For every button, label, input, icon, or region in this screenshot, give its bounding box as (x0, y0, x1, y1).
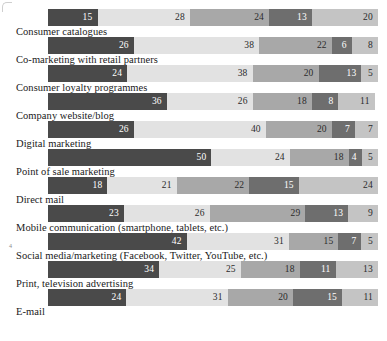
chart-row: 3425181113Print, television advertising (0, 261, 387, 289)
bar-segment: 20 (312, 9, 378, 26)
bar-segment-value: 15 (83, 13, 98, 23)
bar-segment-value: 8 (368, 41, 378, 51)
chart-row: 26382268Co-marketing with retail partner… (0, 37, 387, 65)
bar-segment-value: 50 (196, 153, 211, 163)
category-label: E-mail (16, 306, 45, 317)
bar-segment: 22 (177, 177, 250, 194)
bar-segment: 9 (348, 205, 378, 222)
bar-segment-value: 7 (352, 237, 362, 247)
bar-segment-value: 13 (333, 209, 348, 219)
bar-segment: 24 (211, 149, 289, 166)
bar-segment-value: 13 (297, 13, 312, 23)
bar-segment-value: 42 (172, 237, 187, 247)
bar-segment: 34 (48, 261, 159, 278)
bar-segment-value: 5 (368, 69, 378, 79)
chart-row: 362618811Company website/blog (0, 93, 387, 121)
bar-segment-value: 11 (321, 265, 336, 275)
category-label: Direct mail (16, 194, 64, 205)
bar-segment-value: 24 (112, 293, 127, 303)
bar-segment: 15 (249, 177, 299, 194)
bar-segment: 24 (299, 177, 378, 194)
bar-segment-value: 36 (152, 97, 167, 107)
stacked-bar: 1821221524 (48, 177, 378, 194)
bar-segment: 18 (241, 261, 300, 278)
bar-segment: 18 (48, 177, 107, 194)
chart-row: 2431201511E-mail (0, 289, 387, 317)
category-label: Co-marketing with retail partners (16, 54, 158, 65)
chart-rows-container: 1528241320Consumer catalogues26382268Co-… (0, 9, 387, 317)
bar-segment-value: 6 (342, 41, 352, 51)
bar-segment: 20 (266, 121, 332, 138)
bar-segment: 5 (362, 149, 378, 166)
stacked-bar: 26402077 (48, 121, 378, 138)
bar-segment: 40 (134, 121, 266, 138)
bar-segment: 8 (312, 93, 338, 110)
bar-segment: 18 (253, 93, 312, 110)
bar-segment-value: 5 (368, 153, 378, 163)
category-label: Digital marketing (16, 138, 91, 149)
bar-segment: 15 (289, 233, 339, 250)
bar-segment: 38 (134, 37, 259, 54)
bar-segment: 20 (228, 289, 293, 306)
bar-segment-value: 8 (328, 97, 338, 107)
bar-segment-value: 24 (363, 181, 378, 191)
bar-segment-value: 26 (119, 41, 134, 51)
bar-segment-value: 26 (195, 209, 210, 219)
bar-segment-value: 7 (368, 125, 378, 135)
bar-segment: 38 (127, 65, 252, 82)
bar-segment: 6 (332, 37, 352, 54)
category-label: Point of sale marketing (16, 166, 115, 177)
bar-segment-value: 34 (144, 265, 159, 275)
stacked-bar: 26382268 (48, 37, 378, 54)
bar-segment-value: 13 (347, 69, 362, 79)
bar-segment-value: 11 (360, 97, 375, 107)
bar-segment: 11 (338, 93, 374, 110)
chart-row: 42311575Social media/marketing (Facebook… (0, 233, 387, 261)
category-label: Consumer catalogues (16, 26, 107, 37)
stacked-bar: 1528241320 (48, 9, 378, 26)
bar-segment: 26 (48, 121, 134, 138)
bar-segment-value: 24 (275, 153, 290, 163)
bar-segment-value: 15 (327, 293, 342, 303)
stacked-bar: 243820135 (48, 65, 378, 82)
bar-segment-value: 15 (323, 237, 338, 247)
bar-segment: 13 (305, 205, 348, 222)
stacked-bar: 50241845 (48, 149, 378, 166)
category-label: Mobile communication (smartphone, tablet… (16, 222, 228, 233)
bar-segment: 26 (124, 205, 210, 222)
chart-row: 1528241320Consumer catalogues (0, 9, 387, 37)
bar-segment-value: 26 (238, 97, 253, 107)
bar-segment: 26 (48, 37, 134, 54)
bar-segment-value: 5 (368, 237, 378, 247)
chart-row: 50241845Point of sale marketing (0, 149, 387, 177)
bar-segment: 13 (269, 9, 312, 26)
bar-segment-value: 13 (363, 265, 378, 275)
stacked-bar: 42311575 (48, 233, 378, 250)
bar-segment-value: 22 (317, 41, 332, 51)
bar-segment-value: 9 (368, 209, 378, 219)
bar-segment-value: 26 (119, 125, 134, 135)
bar-segment-value: 29 (290, 209, 305, 219)
bar-segment: 21 (107, 177, 176, 194)
bar-segment: 29 (210, 205, 306, 222)
bar-segment: 5 (361, 65, 378, 82)
bar-segment-value: 20 (317, 125, 332, 135)
bar-segment-value: 20 (278, 293, 293, 303)
bar-segment-value: 20 (363, 13, 378, 23)
stacked-bar: 2431201511 (48, 289, 378, 306)
bar-segment-value: 24 (112, 69, 127, 79)
bar-segment: 23 (48, 205, 124, 222)
category-label: Social media/marketing (Facebook, Twitte… (16, 250, 267, 261)
bar-segment: 15 (293, 289, 342, 306)
bar-segment: 24 (190, 9, 269, 26)
bar-segment-value: 11 (363, 293, 378, 303)
bar-segment: 50 (48, 149, 211, 166)
bar-segment: 11 (300, 261, 336, 278)
stacked-bar: 362618811 (48, 93, 378, 110)
bar-segment: 7 (355, 121, 378, 138)
bar-segment: 15 (48, 9, 98, 26)
bar-segment-value: 18 (285, 265, 300, 275)
bar-segment-value: 15 (284, 181, 299, 191)
bar-segment: 18 (290, 149, 349, 166)
bar-segment-value: 4 (352, 153, 362, 163)
